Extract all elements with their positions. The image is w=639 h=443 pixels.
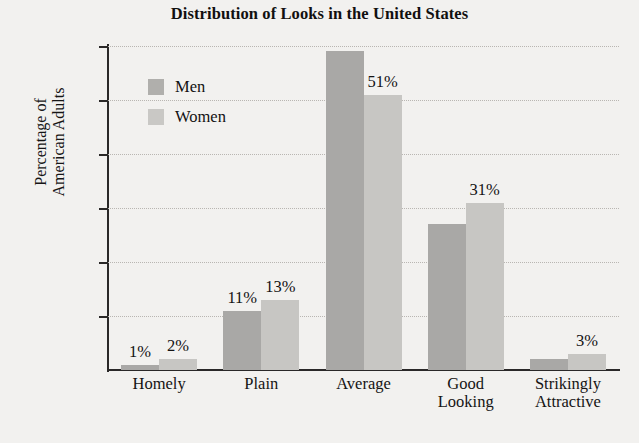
x-axis-category-label: StrikinglyAttractive xyxy=(505,375,631,411)
legend-swatch-women-icon xyxy=(148,109,164,125)
bar-value-label: 31% xyxy=(455,180,515,200)
y-axis-tick xyxy=(99,100,108,102)
bar-women xyxy=(159,359,197,370)
bar-value-label: 2% xyxy=(148,336,208,356)
bar-women xyxy=(364,95,402,370)
legend: Men Women xyxy=(148,72,226,132)
bar-men xyxy=(428,224,466,370)
y-axis-tick xyxy=(99,316,108,318)
chart-title: Distribution of Looks in the United Stat… xyxy=(0,4,639,24)
legend-item-women: Women xyxy=(148,102,226,132)
legend-item-men: Men xyxy=(148,72,226,102)
y-axis-tick xyxy=(99,208,108,210)
bar-women xyxy=(568,354,606,370)
bar-value-label: 3% xyxy=(557,331,617,351)
y-axis-title: Percentage of American Adults xyxy=(28,32,72,252)
y-axis-title-line-2: American Adults xyxy=(50,88,68,197)
bar-men xyxy=(223,311,261,370)
bar-value-label: 13% xyxy=(250,277,310,297)
bar-men xyxy=(121,365,159,370)
y-axis-title-line-1: Percentage of xyxy=(32,88,50,197)
bar-men xyxy=(530,359,568,370)
y-axis-tick xyxy=(99,46,108,48)
legend-label-women: Women xyxy=(175,107,226,127)
bar-men xyxy=(326,51,364,370)
y-axis-tick xyxy=(99,262,108,264)
bar-chart: Distribution of Looks in the United Stat… xyxy=(0,0,639,443)
bar-women xyxy=(466,203,504,370)
x-axis-category-label-line: Strikingly xyxy=(505,375,631,393)
legend-label-men: Men xyxy=(175,77,205,97)
x-axis-category-label-line: Attractive xyxy=(505,393,631,411)
y-axis-tick xyxy=(99,154,108,156)
legend-swatch-men-icon xyxy=(148,79,164,95)
bar-women xyxy=(261,300,299,370)
bar-value-label: 51% xyxy=(353,72,413,92)
